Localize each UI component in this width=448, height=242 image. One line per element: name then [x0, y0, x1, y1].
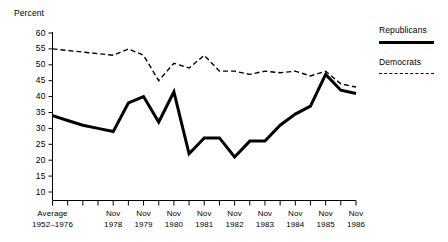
y-axis-tick-label: 10	[24, 187, 46, 197]
legend-label-democrats: Democrats	[379, 57, 421, 67]
y-axis-tick-label: 35	[24, 107, 46, 117]
x-axis-tick-label-line2: 1952–1976	[25, 220, 81, 231]
y-axis-tick-label: 25	[24, 139, 46, 149]
data-series-group	[53, 49, 357, 157]
legend-swatch-democrats	[379, 73, 434, 74]
y-axis-tick-label: 50	[24, 59, 46, 69]
y-axis-tick-label: 30	[24, 123, 46, 133]
legend-swatch-republicans	[379, 41, 434, 44]
y-axis-tick-label: 45	[24, 75, 46, 85]
series-line-democrats	[53, 49, 357, 87]
y-axis-title: Percent	[14, 8, 44, 18]
x-axis-tick-label-line2: 1986	[328, 220, 384, 231]
series-line-republicans	[53, 74, 357, 157]
x-axis-tick-label: Nov1986	[328, 209, 384, 230]
x-axis-tick-label-line1: Average	[25, 209, 81, 220]
plot-area	[0, 0, 448, 242]
y-axis-ticks	[49, 33, 53, 192]
y-axis-tick-label: 15	[24, 171, 46, 181]
y-axis-tick-label: 40	[24, 91, 46, 101]
axis-lines	[53, 32, 357, 201]
legend-label-republicans: Republicans	[379, 25, 427, 35]
y-axis-tick-label: 60	[24, 28, 46, 38]
y-axis-tick-label: 55	[24, 43, 46, 53]
y-axis-tick-label: 20	[24, 155, 46, 165]
x-axis-tick-label: Average1952–1976	[25, 209, 81, 230]
x-axis-ticks	[53, 201, 357, 206]
chart-figure: Percent 6055504540353025201510 Average19…	[0, 0, 448, 242]
x-axis-tick-label-line1: Nov	[328, 209, 384, 220]
